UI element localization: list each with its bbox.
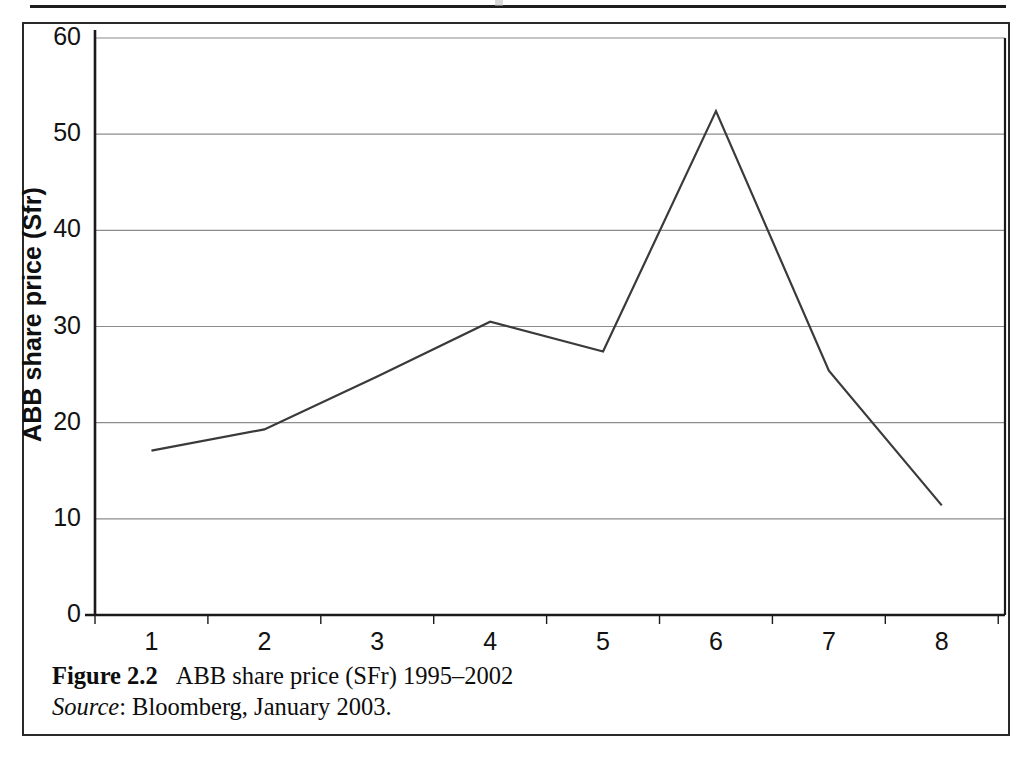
figure-number: Figure 2.2 [52,662,158,689]
caption-source-line: Source: Bloomberg, January 2003. [52,691,952,722]
x-tick-label-5: 5 [583,627,623,656]
data-series-line [151,111,941,505]
y-tick-label-0: 0 [27,599,81,628]
x-axis-ticks [95,615,998,624]
y-tick-label-40: 40 [27,214,81,243]
y-tick-label-20: 20 [27,407,81,436]
line-chart: ABB share price (Sfr) 0102030405060 1234… [0,0,1026,660]
y-tick-label-30: 30 [27,311,81,340]
x-tick-label-7: 7 [809,627,849,656]
caption-title-line: Figure 2.2ABB share price (SFr) 1995–200… [52,660,952,691]
x-tick-label-6: 6 [696,627,736,656]
y-tick-label-50: 50 [27,118,81,147]
x-tick-label-1: 1 [131,627,171,656]
figure-title: ABB share price (SFr) 1995–2002 [176,662,514,689]
source-label: Source [52,693,119,720]
x-tick-label-3: 3 [357,627,397,656]
gridlines [95,38,1005,615]
figure-caption: Figure 2.2ABB share price (SFr) 1995–200… [52,660,952,722]
y-tick-label-60: 60 [27,22,81,51]
x-tick-label-2: 2 [244,627,284,656]
y-tick-label-10: 10 [27,503,81,532]
chart-canvas [0,0,1026,660]
x-tick-label-8: 8 [922,627,962,656]
figure-page: ABB share price (Sfr) 0102030405060 1234… [0,0,1026,760]
x-tick-label-4: 4 [470,627,510,656]
source-text: : Bloomberg, January 2003. [119,693,391,720]
